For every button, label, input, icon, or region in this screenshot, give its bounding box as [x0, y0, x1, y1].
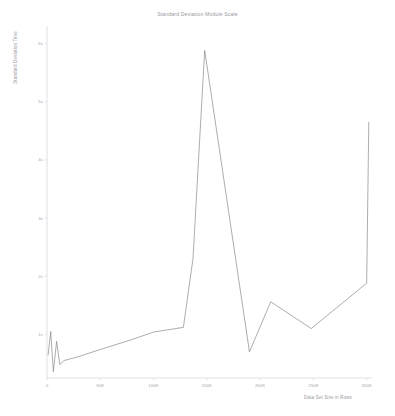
y-tick-label: 1s: [38, 332, 43, 337]
x-tick-label: 200K: [255, 383, 265, 388]
x-tick-label: 250K: [308, 383, 318, 388]
x-tick-label: 0: [46, 383, 49, 388]
y-tick-label: 3s: [38, 216, 43, 221]
x-tick-label: 150K: [202, 383, 212, 388]
y-tick-label: 4s: [38, 157, 43, 162]
y-tick-group: 1s2s3s4s5s6s: [38, 41, 47, 337]
x-tick-group: 050K100K150K200K250K300K: [46, 378, 372, 388]
y-tick-label: 6s: [38, 41, 43, 46]
y-axis: 1s2s3s4s5s6s: [38, 26, 47, 378]
y-tick-label: 2s: [38, 274, 43, 279]
y-tick-label: 5s: [38, 99, 43, 104]
x-axis: 050K100K150K200K250K300K: [46, 378, 372, 388]
x-tick-label: 50K: [96, 383, 104, 388]
x-tick-label: 300K: [361, 383, 371, 388]
x-tick-label: 100K: [148, 383, 158, 388]
line-series-standard-deviation-time: [48, 50, 369, 371]
chart-figure: · · · Standard Deviation Module Scale St…: [0, 0, 395, 416]
series-group: [48, 50, 369, 371]
plot-area: 1s2s3s4s5s6s 050K100K150K200K250K300K: [0, 0, 395, 416]
